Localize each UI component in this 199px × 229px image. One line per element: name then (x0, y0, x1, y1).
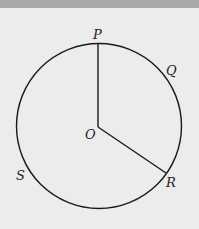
circle (17, 44, 182, 209)
label-r: R (165, 175, 176, 190)
label-s: S (16, 168, 25, 183)
circle-diagram: P Q O R S (0, 0, 199, 229)
label-o: O (85, 127, 96, 142)
label-q: Q (166, 63, 177, 78)
label-p: P (92, 27, 102, 42)
radius-or (98, 127, 166, 173)
